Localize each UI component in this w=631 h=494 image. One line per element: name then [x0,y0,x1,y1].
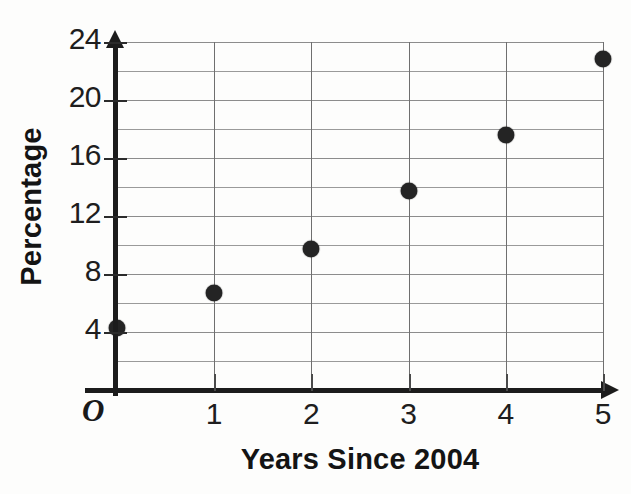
gridline-vertical [311,42,312,390]
gridline-horizontal [117,245,603,246]
y-axis-title: Percentage [15,92,48,322]
y-axis-tick [104,42,127,44]
y-axis-tick [104,332,127,334]
gridline-horizontal [117,332,603,333]
data-point [595,51,611,67]
x-axis-line [85,388,607,393]
gridline-vertical [506,42,507,390]
y-axis-tick [104,216,127,218]
x-axis-tick [603,374,605,391]
data-point [303,241,319,257]
x-axis-tick [214,374,216,391]
y-axis-tick-label: 12 [41,196,101,230]
gridline-vertical [409,42,410,390]
data-point [498,127,514,143]
y-axis-tick-label: 20 [41,80,101,114]
y-axis-tick-label: 8 [41,254,101,288]
y-axis-tick [104,158,127,160]
x-axis-tick [311,374,313,391]
data-point [206,285,222,301]
y-axis-tick [104,274,127,276]
gridline-vertical [603,42,604,390]
y-axis-tick-label: 4 [41,312,101,346]
x-axis-tick [506,374,508,391]
y-axis-arrow-icon [106,30,124,48]
plot-area [117,42,603,390]
x-axis-tick-label: 2 [286,397,336,431]
x-axis-tick [409,374,411,391]
x-axis-tick-label: 1 [189,397,239,431]
gridline-horizontal [117,129,603,130]
gridline-horizontal [117,71,603,72]
data-point [401,183,417,199]
gridline-horizontal [117,187,603,188]
gridline-horizontal [117,303,603,304]
y-axis-tick [104,100,127,102]
gridline-horizontal [117,361,603,362]
scatter-plot-figure: 4812162024 12345 Percentage Years Since … [0,0,631,494]
x-axis-title: Years Since 2004 [117,443,603,476]
y-axis-tick-label: 24 [41,22,101,56]
gridline-horizontal [117,216,603,217]
gridline-horizontal [117,100,603,101]
gridline-horizontal [117,274,603,275]
y-axis-line [113,44,118,396]
gridline-vertical [214,42,215,390]
gridline-horizontal [117,42,603,43]
gridline-horizontal [117,158,603,159]
x-axis-tick-label: 3 [384,397,434,431]
y-axis-tick-label: 16 [41,138,101,172]
x-axis-tick-label: 4 [481,397,531,431]
x-axis-tick-label: 5 [578,397,628,431]
origin-label: O [82,393,104,429]
